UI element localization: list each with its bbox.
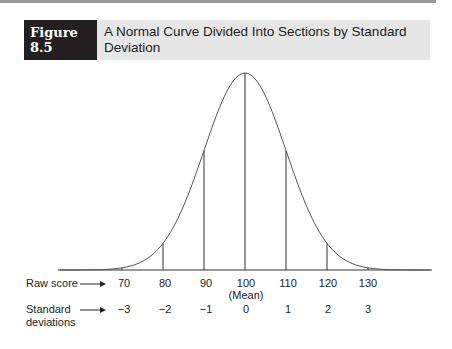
sd-label-line2: deviations <box>26 316 76 328</box>
sd-arrow <box>80 307 106 313</box>
sd-tick-3: 3 <box>348 303 388 315</box>
sd-divider-lines <box>122 73 368 270</box>
sd-tick-2: 2 <box>308 303 348 315</box>
raw-tick-120: 120 <box>308 277 348 289</box>
sd-label-line1: Standard <box>26 303 71 315</box>
raw-tick-130: 130 <box>348 277 388 289</box>
raw-tick-90: 90 <box>186 277 226 289</box>
sd-tick-1: 1 <box>268 303 308 315</box>
sd-tick-neg2: −2 <box>145 303 185 315</box>
raw-score-label: Raw score <box>26 277 78 289</box>
mean-label: (Mean) <box>220 289 272 301</box>
raw-tick-110: 110 <box>268 277 308 289</box>
sd-tick-neg1: −1 <box>186 303 226 315</box>
raw-tick-100: 100 <box>226 277 266 289</box>
raw-tick-80: 80 <box>145 277 185 289</box>
sd-tick-0: 0 <box>226 303 266 315</box>
raw-tick-70: 70 <box>104 277 144 289</box>
raw-arrow <box>80 281 106 287</box>
sd-tick-neg3: −3 <box>104 303 144 315</box>
